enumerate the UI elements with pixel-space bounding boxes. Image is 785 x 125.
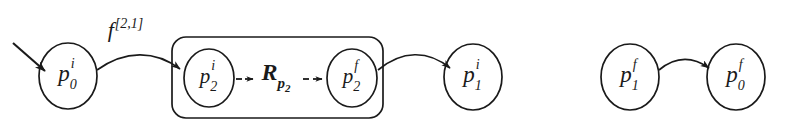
state-label-p0i-sub: 0 xyxy=(70,78,77,93)
state-label-p1i-sup: i xyxy=(476,58,480,73)
state-label-p2f-sup: f xyxy=(354,59,358,74)
state-label-p1i: pi1 xyxy=(463,62,483,91)
state-label-p0i-sup: i xyxy=(71,57,75,72)
state-label-p1f-base: p xyxy=(620,62,632,87)
relation-label-base: R xyxy=(261,59,277,85)
state-label-p2f: pf2 xyxy=(343,63,362,92)
state-label-p1f-sup: f xyxy=(633,58,637,73)
state-label-p0f-sub: 0 xyxy=(738,79,745,94)
state-label-p0f-base: p xyxy=(726,62,738,87)
state-label-p2i-base: p xyxy=(200,64,211,88)
state-label-p0f-sup: f xyxy=(739,58,743,73)
state-label-p2f-sub: 2 xyxy=(353,80,360,95)
edge-p1f-to-p0f xyxy=(659,59,709,70)
relation-label-sub-base: p xyxy=(278,75,286,91)
state-label-p2i-sup: i xyxy=(211,59,215,74)
state-label-p2i: pi2 xyxy=(200,63,219,92)
relation-label-sub-script: 2 xyxy=(285,82,291,94)
edge-label-f-base: f xyxy=(108,17,114,42)
state-label-p0i-base: p xyxy=(58,61,70,86)
edge-label-f-sup: [2,1] xyxy=(115,16,143,31)
state-label-p1i-base: p xyxy=(463,62,475,87)
edge-label-f: f[2,1] xyxy=(108,19,143,41)
state-label-p1f: pf1 xyxy=(620,62,640,91)
state-label-p2i-sub: 2 xyxy=(210,80,217,95)
edge-p2f-to-p1i xyxy=(378,55,450,70)
state-label-p0f: pf0 xyxy=(726,62,746,91)
state-label-p1i-sub: 1 xyxy=(475,79,482,94)
entry-arrow xyxy=(13,43,45,71)
state-label-p1f-sub: 1 xyxy=(632,79,639,94)
state-transition-diagram: pi0 pi2 pf2 pi1 pf1 pf0 f[2,1] Rp2 xyxy=(0,0,785,125)
relation-label-R: Rp2 xyxy=(261,60,290,84)
state-label-p2f-base: p xyxy=(343,64,354,88)
state-label-p0i: pi0 xyxy=(58,61,78,90)
edge-p0i-to-p2i xyxy=(97,55,180,70)
